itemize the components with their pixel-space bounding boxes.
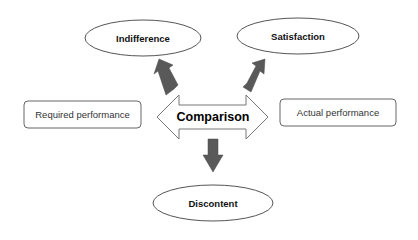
indifference-label: Indifference xyxy=(85,29,201,47)
arrow-to-discontent-icon xyxy=(203,139,223,172)
arrow-to-indifference-icon xyxy=(154,59,178,95)
actual-performance-label: Actual performance xyxy=(280,99,396,126)
discontent-label: Discontent xyxy=(153,194,273,212)
arrow-to-satisfaction-icon xyxy=(243,59,265,92)
satisfaction-label: Satisfaction xyxy=(237,27,359,45)
comparison-label: Comparison xyxy=(170,105,256,129)
required-performance-label: Required performance xyxy=(24,101,141,128)
